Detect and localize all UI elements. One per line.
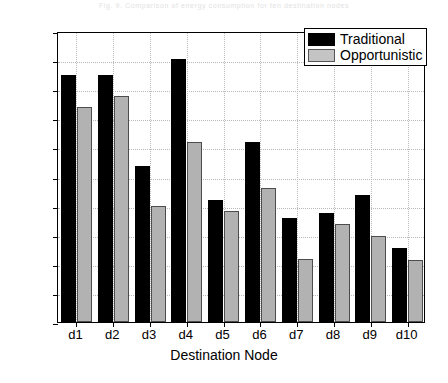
x-tick-label-d1: d1 [68,327,82,342]
bar-d5-traditional [208,200,223,322]
bar-d1-opportunistic [77,107,92,322]
legend-label-opportunistic: Opportunistic [340,48,422,62]
y-tick [53,149,58,150]
bar-d10-opportunistic [408,260,423,322]
y-tick [53,208,58,209]
bar-d2-traditional [98,75,113,322]
bar-d3-opportunistic [151,206,166,322]
bar-d2-opportunistic [114,96,129,322]
bar-d7-traditional [282,218,297,322]
x-tick-label-d6: d6 [252,327,266,342]
legend-item-opportunistic: Opportunistic [308,48,422,62]
y-tick [53,324,58,325]
x-tick-label-d9: d9 [363,327,377,342]
y-tick [53,62,58,63]
bar-d6-traditional [245,142,260,322]
x-tick-label-d8: d8 [326,327,340,342]
legend-swatch-traditional [308,33,335,46]
legend-label-traditional: Traditional [340,32,405,46]
bar-chart-figure: Energy (Joule) Destination Node Traditio… [0,0,448,383]
bar-d4-opportunistic [187,142,202,322]
y-tick [53,179,58,180]
bar-d8-opportunistic [335,224,350,322]
x-tick-label-d2: d2 [105,327,119,342]
bar-d9-opportunistic [371,236,386,322]
bar-d9-traditional [355,195,370,322]
bar-d1-traditional [61,75,76,322]
y-tick [53,237,58,238]
x-tick-label-d5: d5 [215,327,229,342]
x-tick-label-d4: d4 [179,327,193,342]
y-tick [53,266,58,267]
y-tick [53,120,58,121]
bar-d5-opportunistic [224,211,239,322]
y-tick [53,295,58,296]
plot-area: Traditional Opportunistic [57,32,425,323]
y-tick [53,91,58,92]
x-tick-label-d7: d7 [289,327,303,342]
bar-d8-traditional [319,213,334,322]
bar-d6-opportunistic [261,188,276,322]
chart-legend: Traditional Opportunistic [304,28,427,66]
x-tick-label-d10: d10 [396,327,418,342]
legend-swatch-opportunistic [308,49,335,62]
x-tick-label-d3: d3 [142,327,156,342]
bar-d10-traditional [392,248,407,322]
y-tick [53,33,58,34]
bar-d3-traditional [135,166,150,322]
bar-d7-opportunistic [298,259,313,322]
bar-d4-traditional [171,59,186,322]
legend-item-traditional: Traditional [308,32,422,46]
x-axis-title: Destination Node [0,347,448,363]
bars-layer [58,33,424,322]
